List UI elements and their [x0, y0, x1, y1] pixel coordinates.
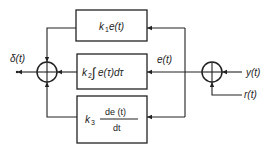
svg-text:e(τ)dτ: e(τ)dτ — [98, 67, 125, 78]
svg-text:dt: dt — [113, 123, 121, 133]
svg-text:de (t): de (t) — [105, 107, 126, 117]
left-summing-junction — [37, 62, 57, 82]
svg-text:e(t): e(t) — [109, 21, 124, 32]
measured-signal-label: y(t) — [245, 67, 260, 78]
output-signal-label: δ(t) — [10, 53, 25, 64]
pid-block-diagram: k 1 e(t) k 2 ∫ e(τ)dτ k 3 de (t) dt — [0, 0, 274, 152]
proportional-block: k 1 e(t) — [76, 10, 147, 41]
error-signal-label: e(t) — [157, 54, 172, 65]
right-summing-junction — [202, 62, 222, 82]
integral-block: k 2 ∫ e(τ)dτ — [77, 54, 147, 89]
reference-signal-label: r(t) — [244, 89, 257, 100]
svg-text:3: 3 — [91, 119, 95, 126]
derivative-block: k 3 de (t) dt — [77, 96, 147, 143]
